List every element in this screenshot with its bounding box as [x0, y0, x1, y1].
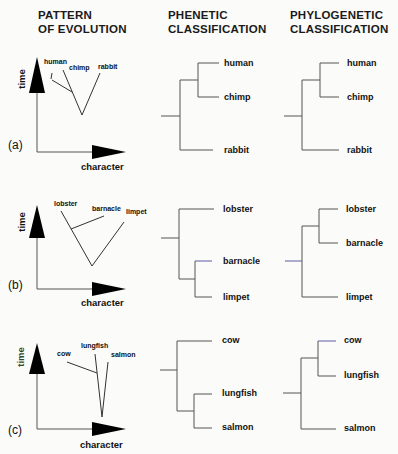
- taxon-label: chimp: [69, 64, 90, 72]
- panel-a-phylogenetic-tree: human chimp rabbit: [284, 58, 377, 155]
- taxon-label: barnacle: [223, 256, 260, 266]
- time-axis-label: time: [16, 212, 27, 232]
- branch-lobster: [61, 211, 92, 266]
- panel-label: (b): [8, 278, 23, 292]
- time-axis-arrow-icon: [29, 57, 45, 93]
- taxon-label: barnacle: [346, 238, 383, 248]
- panel-b-phenetic-tree: lobster barnacle limpet: [161, 204, 260, 302]
- taxon-label: lungfish: [222, 388, 257, 398]
- taxon-label: lungfish: [344, 370, 379, 380]
- character-axis-label: character: [81, 161, 124, 172]
- taxon-label: rabbit: [347, 145, 372, 155]
- panel-c-phylogenetic-tree: cow lungfish salmon: [283, 335, 379, 433]
- character-axis-arrow-icon: [92, 282, 126, 296]
- character-axis-arrow-icon: [92, 422, 126, 436]
- taxon-label: barnacle: [92, 205, 121, 212]
- taxon-label: human: [347, 58, 377, 68]
- character-axis-label: character: [80, 439, 123, 450]
- branch: [51, 73, 52, 79]
- branch-human: [52, 80, 72, 92]
- taxon-label: chimp: [224, 92, 251, 102]
- taxon-label: lungfish: [81, 342, 108, 350]
- panel-a-evolution: time character (a) human chimp rabbit: [8, 57, 126, 172]
- character-axis-arrow-icon: [92, 145, 126, 159]
- branch-chimp: [63, 70, 82, 115]
- taxon-label: rabbit: [224, 145, 249, 155]
- taxon-label: rabbit: [98, 63, 118, 70]
- taxon-label: limpet: [126, 208, 147, 216]
- time-axis-arrow-icon: [29, 205, 45, 238]
- taxon-label: cow: [222, 335, 241, 345]
- panel-c-evolution: time character (c) cow lungfish salmon: [8, 342, 136, 450]
- taxon-label: lobster: [223, 204, 254, 214]
- panel-label: (c): [8, 423, 22, 437]
- taxon-label: limpet: [223, 292, 250, 302]
- figure-canvas: time character (a) human chimp rabbit hu…: [0, 0, 398, 454]
- branch-cow: [67, 362, 97, 373]
- taxon-label: salmon: [344, 423, 376, 433]
- time-axis-arrow-icon: [29, 343, 45, 374]
- panel-b-evolution: time character (b) lobster barnacle limp…: [8, 200, 147, 308]
- taxon-label: limpet: [346, 292, 373, 302]
- panel-b-phylogenetic-tree: lobster barnacle limpet: [285, 204, 383, 302]
- taxon-label: cow: [344, 335, 363, 345]
- panel-c-phenetic-tree: cow lungfish salmon: [160, 335, 257, 432]
- time-axis-label: time: [16, 69, 27, 89]
- branch-barnacle: [71, 216, 104, 229]
- taxon-label: lobster: [346, 204, 377, 214]
- time-axis-label: time: [15, 347, 26, 367]
- panel-label: (a): [8, 138, 23, 152]
- taxon-label: human: [224, 58, 254, 68]
- character-axis-label: character: [81, 297, 124, 308]
- branch-salmon: [102, 362, 108, 417]
- branch-rabbit: [82, 73, 100, 115]
- taxon-label: human: [44, 58, 67, 65]
- panel-a-phenetic-tree: human chimp rabbit: [161, 58, 254, 155]
- taxon-label: cow: [57, 350, 71, 357]
- branch-limpet: [92, 222, 124, 266]
- taxon-label: salmon: [111, 351, 136, 358]
- taxon-label: salmon: [222, 422, 254, 432]
- taxon-label: lobster: [54, 200, 78, 207]
- branch-lungfish: [95, 354, 102, 417]
- taxon-label: chimp: [347, 92, 374, 102]
